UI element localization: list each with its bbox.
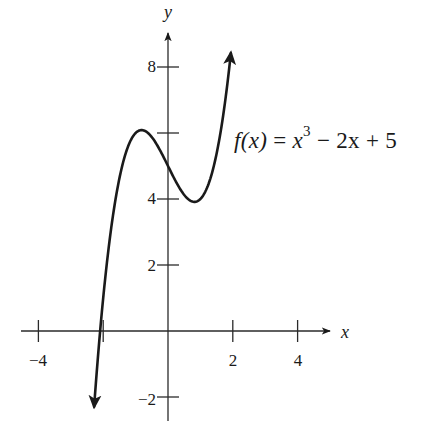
function-label-exponent: 3 <box>303 123 311 139</box>
function-label-lhs: f(x) <box>234 128 267 153</box>
function-label-eq: = <box>273 128 286 153</box>
x-tick-label-neg4: −4 <box>29 351 48 370</box>
y-tick-label-2: 2 <box>148 256 157 275</box>
y-tick-label-8: 8 <box>148 57 157 76</box>
x-axis-label: x <box>340 322 349 342</box>
function-plot: −4 2 4 8 4 2 −2 y x <box>0 0 432 421</box>
y-tick-label-neg2: −2 <box>138 390 156 409</box>
function-curve <box>94 53 231 407</box>
function-label-rest: − 2x + 5 <box>317 128 397 153</box>
function-label-base: x <box>293 128 304 153</box>
x-tick-label-4: 4 <box>294 351 303 370</box>
function-label: f(x) = x3 − 2x + 5 <box>234 128 397 154</box>
x-tick-label-2: 2 <box>229 351 238 370</box>
y-axis-label: y <box>162 2 172 22</box>
y-tick-label-4: 4 <box>148 189 157 208</box>
